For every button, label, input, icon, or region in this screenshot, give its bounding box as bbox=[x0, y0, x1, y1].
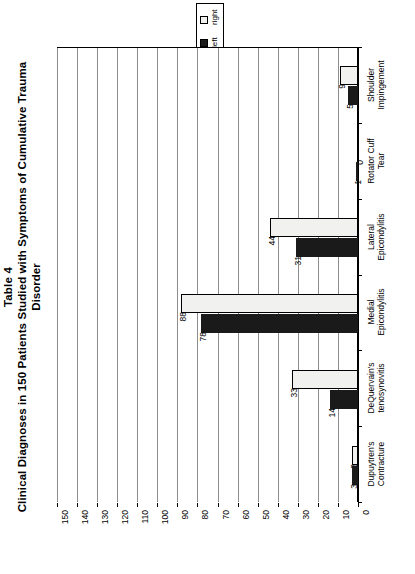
chart-page: Table 4 Clinical Diagnoses in 150 Patien… bbox=[0, 0, 415, 574]
value-tick-10 bbox=[338, 503, 339, 507]
category-tick-5 bbox=[358, 426, 362, 427]
value-tick-30 bbox=[298, 503, 299, 507]
category-label-text-4: DeQuervain'stenosynovitis bbox=[366, 363, 386, 414]
plot-area: 950144318878331433 bbox=[57, 47, 358, 502]
gridline-150 bbox=[57, 48, 58, 502]
gridline-140 bbox=[77, 48, 78, 502]
category-label-3: MedialEpicondylitis bbox=[366, 312, 367, 313]
legend-swatch-right bbox=[200, 16, 208, 24]
chart-title-block: Table 4 Clinical Diagnoses in 150 Patien… bbox=[0, 0, 44, 574]
value-tick-80 bbox=[197, 503, 198, 507]
gridline-40 bbox=[278, 48, 279, 502]
gridline-60 bbox=[238, 48, 239, 502]
gridline-120 bbox=[117, 48, 118, 502]
value-tick-label-70: 70 bbox=[222, 510, 231, 519]
value-tick-label-100: 100 bbox=[161, 510, 170, 524]
page-title: Clinical Diagnoses in 150 Patients Studi… bbox=[15, 62, 29, 513]
value-tick-150 bbox=[57, 503, 58, 507]
gridline-80 bbox=[197, 48, 198, 502]
table-number: Table 4 bbox=[1, 267, 15, 307]
value-tick-label-60: 60 bbox=[242, 510, 251, 519]
category-tick-end bbox=[358, 502, 362, 503]
value-tick-120 bbox=[117, 503, 118, 507]
category-label-0: ShoulderImpingement bbox=[366, 85, 367, 86]
bar-value-right-4: 33 bbox=[290, 388, 299, 397]
value-tick-20 bbox=[318, 503, 319, 507]
gridline-30 bbox=[298, 48, 299, 502]
category-label-text-2: LateralEpicondylitis bbox=[366, 213, 386, 260]
gridline-130 bbox=[97, 48, 98, 502]
bar-value-left-0: 5 bbox=[346, 104, 355, 109]
value-tick-100 bbox=[157, 503, 158, 507]
gridline-70 bbox=[218, 48, 219, 502]
bar-left-2 bbox=[296, 238, 358, 257]
gridline-10 bbox=[338, 48, 339, 502]
gridline-50 bbox=[258, 48, 259, 502]
legend-item-right: right bbox=[197, 4, 225, 27]
value-tick-label-0: 0 bbox=[362, 510, 371, 515]
value-tick-label-50: 50 bbox=[262, 510, 271, 519]
category-label-text-5: Dupuytren'sContracture bbox=[366, 442, 386, 487]
value-tick-label-10: 10 bbox=[342, 510, 351, 519]
value-axis: 0102030405060708090100110120130140150 bbox=[57, 503, 358, 545]
category-tick-2 bbox=[358, 199, 362, 200]
bar-left-3 bbox=[201, 314, 358, 333]
value-tick-label-140: 140 bbox=[81, 510, 90, 524]
gridline-100 bbox=[157, 48, 158, 502]
legend-label-right: right bbox=[210, 15, 211, 25]
value-tick-label-20: 20 bbox=[322, 510, 331, 519]
value-tick-130 bbox=[97, 503, 98, 507]
bar-right-4 bbox=[292, 370, 358, 389]
category-label-5: Dupuytren'sContracture bbox=[366, 464, 367, 465]
category-label-4: DeQuervain'stenosynovitis bbox=[366, 388, 367, 389]
value-tick-70 bbox=[218, 503, 219, 507]
category-label-1: Rotator CuffTear bbox=[366, 161, 367, 162]
value-tick-90 bbox=[177, 503, 178, 507]
bar-left-0 bbox=[348, 86, 358, 105]
category-label-text-3: MedialEpicondylitis bbox=[366, 289, 386, 336]
bar-value-right-2: 44 bbox=[268, 236, 277, 245]
category-label-text-1: Rotator CuffTear bbox=[366, 138, 386, 184]
category-tick-0 bbox=[358, 47, 362, 48]
category-tick-4 bbox=[358, 350, 362, 351]
value-tick-label-80: 80 bbox=[201, 510, 210, 519]
value-tick-label-90: 90 bbox=[181, 510, 190, 519]
value-tick-50 bbox=[258, 503, 259, 507]
category-label-2: LateralEpicondylitis bbox=[366, 237, 367, 238]
page-title-cont: Disorder bbox=[29, 263, 43, 310]
category-axis: ShoulderImpingementRotator CuffTearLater… bbox=[358, 47, 415, 502]
category-tick-1 bbox=[358, 123, 362, 124]
value-tick-110 bbox=[137, 503, 138, 507]
bar-value-left-3: 78 bbox=[199, 332, 208, 341]
bar-value-left-4: 14 bbox=[328, 408, 337, 417]
legend-swatch-left bbox=[200, 39, 208, 47]
value-tick-label-110: 110 bbox=[141, 510, 150, 524]
bar-value-left-2: 31 bbox=[294, 256, 303, 265]
gridline-110 bbox=[137, 48, 138, 502]
bar-left-4 bbox=[330, 390, 358, 409]
bar-value-right-3: 88 bbox=[179, 312, 188, 321]
value-tick-label-120: 120 bbox=[121, 510, 130, 524]
value-tick-label-130: 130 bbox=[101, 510, 110, 524]
value-tick-140 bbox=[77, 503, 78, 507]
value-tick-0 bbox=[358, 503, 359, 507]
chart-legend: rightleft bbox=[196, 3, 224, 49]
bar-right-2 bbox=[270, 218, 358, 237]
bar-right-3 bbox=[181, 294, 358, 313]
bar-value-right-0: 9 bbox=[338, 84, 347, 89]
bar-right-0 bbox=[340, 66, 358, 85]
category-tick-3 bbox=[358, 275, 362, 276]
value-tick-label-40: 40 bbox=[282, 510, 291, 519]
category-label-text-0: ShoulderImpingement bbox=[366, 60, 386, 109]
gridline-90 bbox=[177, 48, 178, 502]
value-tick-40 bbox=[278, 503, 279, 507]
gridline-20 bbox=[318, 48, 319, 502]
value-tick-label-150: 150 bbox=[61, 510, 70, 524]
value-tick-label-30: 30 bbox=[302, 510, 311, 519]
value-tick-60 bbox=[238, 503, 239, 507]
